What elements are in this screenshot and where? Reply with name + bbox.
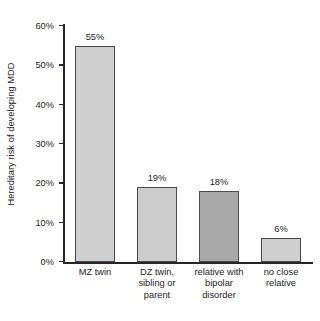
x-axis-category-label: DZ twin,sibling orparent bbox=[126, 267, 188, 301]
y-axis-tick: 0% bbox=[0, 256, 64, 268]
x-axis-category-label: relative withbipolardisorder bbox=[188, 267, 250, 301]
y-axis-tick: 30% bbox=[0, 138, 64, 150]
bar-value-label: 19% bbox=[148, 173, 167, 184]
y-axis-tick: 40% bbox=[0, 99, 64, 111]
y-axis-tick: 20% bbox=[0, 177, 64, 189]
plot-area: 55%19%18%6% bbox=[64, 26, 312, 262]
x-axis-category-line: sibling or bbox=[126, 278, 188, 289]
x-axis-category-line: relative bbox=[250, 278, 312, 289]
y-axis-tick-label: 0% bbox=[41, 256, 54, 268]
x-axis-category-line: relative with bbox=[188, 267, 250, 278]
x-axis-category-line: DZ twin, bbox=[126, 267, 188, 278]
bar-chart-figure: Hereditary risk of developing MDD 0%10%2… bbox=[0, 0, 320, 321]
bar[interactable] bbox=[75, 46, 115, 262]
bar-value-label: 55% bbox=[86, 32, 105, 43]
y-axis-tick-label: 50% bbox=[35, 59, 54, 71]
bar[interactable] bbox=[199, 191, 239, 262]
x-axis-category-line: MZ twin bbox=[64, 267, 126, 278]
bar[interactable] bbox=[137, 187, 177, 262]
bar-value-label: 18% bbox=[210, 177, 229, 188]
x-axis-category-label: no closerelative bbox=[250, 267, 312, 290]
y-axis-tick: 10% bbox=[0, 217, 64, 229]
y-axis-tick-label: 60% bbox=[35, 20, 54, 32]
y-axis-tick-label: 20% bbox=[35, 177, 54, 189]
x-axis-category-line: bipolar bbox=[188, 278, 250, 289]
y-axis-tick-label: 10% bbox=[35, 217, 54, 229]
bar-group: 6% bbox=[261, 26, 301, 262]
y-axis-tick: 50% bbox=[0, 59, 64, 71]
x-axis-category-label: MZ twin bbox=[64, 267, 126, 278]
bar-value-label: 6% bbox=[274, 224, 287, 235]
y-axis-tick-label: 30% bbox=[35, 138, 54, 150]
x-axis-category-line: disorder bbox=[188, 290, 250, 301]
y-axis-tick-label: 40% bbox=[35, 99, 54, 111]
x-axis-category-line: no close bbox=[250, 267, 312, 278]
bar-group: 55% bbox=[75, 26, 115, 262]
x-axis-line bbox=[63, 262, 313, 264]
bar-group: 19% bbox=[137, 26, 177, 262]
y-axis-tick: 60% bbox=[0, 20, 64, 32]
bar[interactable] bbox=[261, 238, 301, 262]
x-axis-category-line: parent bbox=[126, 290, 188, 301]
bar-group: 18% bbox=[199, 26, 239, 262]
